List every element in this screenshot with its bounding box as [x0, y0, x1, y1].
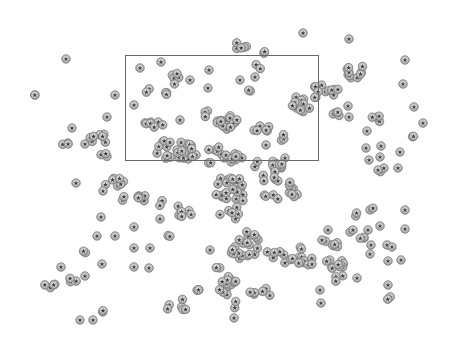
particle	[163, 305, 172, 314]
particle	[214, 143, 223, 152]
particle	[49, 281, 58, 290]
particle	[397, 256, 406, 265]
particle	[194, 286, 203, 295]
particle	[243, 238, 252, 247]
particle	[64, 140, 73, 149]
particle	[93, 232, 102, 241]
particle	[158, 121, 167, 130]
particle	[146, 244, 155, 253]
particle	[316, 286, 325, 295]
particle	[103, 113, 112, 122]
particle	[288, 101, 297, 110]
particle	[305, 104, 314, 113]
particle	[237, 44, 246, 53]
particle	[233, 116, 242, 125]
particle	[97, 213, 106, 222]
particle	[115, 174, 124, 183]
particle	[258, 287, 267, 296]
particle	[212, 263, 221, 272]
particle	[176, 116, 185, 125]
particle	[157, 58, 166, 67]
particle	[253, 244, 262, 253]
particle	[99, 306, 108, 315]
particle	[186, 76, 195, 85]
particle	[274, 195, 283, 204]
particle	[150, 123, 159, 132]
particle	[228, 245, 237, 254]
particle	[136, 64, 145, 73]
particle	[218, 277, 227, 286]
particle	[332, 277, 341, 286]
particle	[212, 190, 221, 199]
particle	[262, 126, 271, 135]
particle	[206, 158, 215, 167]
particle	[222, 189, 231, 198]
particle	[377, 142, 386, 151]
particle	[334, 260, 343, 269]
particle	[66, 274, 75, 283]
particle	[206, 246, 215, 255]
particle	[217, 117, 226, 126]
particle	[98, 132, 107, 141]
particle	[344, 63, 353, 72]
particle	[188, 152, 197, 161]
particle	[310, 93, 319, 102]
particle	[260, 47, 269, 56]
particle	[317, 299, 326, 308]
particle	[111, 91, 120, 100]
particle	[251, 73, 260, 82]
particle	[130, 244, 139, 253]
particle	[353, 274, 362, 283]
particle	[226, 123, 235, 132]
particle	[79, 247, 88, 256]
particle	[81, 272, 90, 281]
particle	[205, 66, 214, 75]
particle	[230, 314, 239, 323]
particle	[288, 190, 297, 199]
particle	[228, 208, 237, 217]
particle	[111, 232, 120, 241]
particle	[368, 113, 377, 122]
particle	[170, 80, 179, 89]
particle	[362, 144, 371, 153]
particle	[419, 119, 428, 128]
particle	[130, 101, 139, 110]
particle	[130, 223, 139, 232]
particle	[367, 241, 376, 250]
particle	[349, 226, 358, 235]
particle	[99, 187, 108, 196]
particle	[41, 281, 50, 290]
particle	[344, 102, 353, 111]
particle	[215, 285, 224, 294]
particle	[388, 243, 397, 252]
particle	[363, 127, 372, 136]
particle	[250, 230, 259, 239]
particle	[156, 201, 165, 210]
particle	[232, 152, 241, 161]
particle	[231, 297, 240, 306]
particle	[384, 257, 393, 266]
particle	[376, 153, 385, 162]
particle	[356, 234, 365, 243]
particle	[245, 250, 254, 259]
particle	[187, 210, 196, 219]
particle	[120, 192, 129, 201]
particle	[334, 108, 343, 117]
particle	[177, 138, 186, 147]
particle	[262, 141, 271, 150]
particle	[205, 145, 214, 154]
particle	[201, 112, 210, 121]
particle	[177, 212, 186, 221]
particle	[374, 166, 383, 175]
particle	[72, 179, 81, 188]
particle	[286, 178, 295, 187]
particle	[178, 147, 187, 156]
particle-canvas	[0, 0, 451, 343]
particle	[369, 204, 378, 213]
particle	[270, 173, 279, 182]
particle	[324, 226, 333, 235]
particle	[297, 245, 306, 254]
particle	[62, 55, 71, 64]
particle	[166, 232, 175, 241]
particle	[173, 69, 182, 78]
